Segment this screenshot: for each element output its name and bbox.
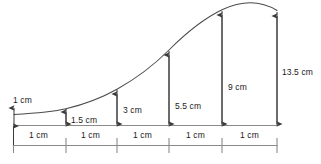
height-label-9cm: 9 cm xyxy=(228,82,247,92)
width-label-segment-3: 1 cm xyxy=(133,130,152,140)
width-label-segment-1: 1 cm xyxy=(29,130,48,140)
diagram-canvas: 1 cm 1.5 cm 3 cm 5.5 cm 9 cm 13.5 cm 1 c… xyxy=(0,0,321,164)
width-label-segment-4: 1 cm xyxy=(186,130,205,140)
diagram-graphic xyxy=(0,0,321,164)
curve-path xyxy=(14,3,277,115)
height-label-3cm: 3 cm xyxy=(123,105,142,115)
bottom-measure-axis xyxy=(13,138,278,153)
height-label-1-5cm: 1.5 cm xyxy=(71,115,97,125)
width-label-segment-2: 1 cm xyxy=(81,130,100,140)
height-label-1cm: 1 cm xyxy=(13,95,32,105)
width-label-segment-5: 1 cm xyxy=(240,130,259,140)
height-label-13-5cm: 13.5 cm xyxy=(282,67,313,77)
height-label-5-5cm: 5.5 cm xyxy=(175,101,201,111)
